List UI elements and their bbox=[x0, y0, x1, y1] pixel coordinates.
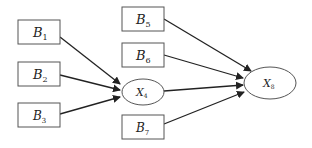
path-diagram: B1 B2 B3 B5 B6 X4 B7 X8 bbox=[0, 0, 312, 148]
edge-x4-x8 bbox=[164, 85, 243, 91]
node-b2: B2 bbox=[18, 62, 60, 86]
node-b3: B3 bbox=[18, 103, 60, 127]
node-b6: B6 bbox=[122, 43, 164, 67]
edge-b7-x8 bbox=[164, 92, 244, 124]
node-b5: B5 bbox=[122, 7, 164, 31]
node-x8: X8 bbox=[244, 67, 296, 99]
edge-b3-x4 bbox=[60, 97, 120, 114]
edges bbox=[60, 19, 251, 124]
edge-b5-x8 bbox=[164, 19, 251, 71]
node-x4: X4 bbox=[122, 79, 164, 105]
node-b1: B1 bbox=[18, 20, 60, 44]
node-b7: B7 bbox=[122, 115, 164, 139]
